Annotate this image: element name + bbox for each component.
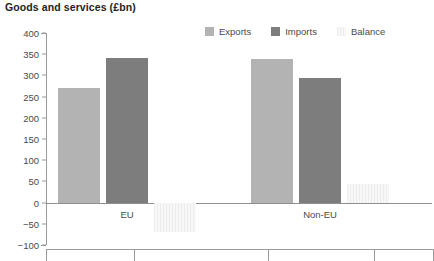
y-axis-tick-mark: [42, 223, 46, 224]
y-axis-tick-mark: [42, 181, 46, 182]
plot-area: 400350300250200150100500−50−100EUNon-EU: [46, 33, 432, 245]
y-axis-tick-mark: [42, 33, 46, 34]
y-axis-tick-label: 150: [23, 134, 39, 145]
x-axis-category-label: EU: [120, 209, 133, 220]
table-gridline: [46, 250, 47, 261]
bar-exports: [251, 59, 293, 202]
y-axis-tick-mark: [42, 75, 46, 76]
bar-exports: [58, 88, 100, 202]
y-axis-tick-label: 50: [28, 176, 39, 187]
y-axis-tick-label: −50: [23, 218, 39, 229]
table-below-crop: [46, 249, 434, 260]
table-gridline: [268, 250, 269, 261]
y-axis-tick-mark: [42, 117, 46, 118]
y-axis-tick-mark: [42, 139, 46, 140]
zero-baseline: [46, 203, 432, 204]
y-axis-tick-mark: [42, 54, 46, 55]
y-axis-tick-label: 100: [23, 155, 39, 166]
table-gridline: [374, 250, 375, 261]
y-axis-tick-mark: [42, 96, 46, 97]
bar-balance: [154, 203, 196, 233]
y-axis-tick-label: 200: [23, 112, 39, 123]
y-axis-tick-label: 250: [23, 91, 39, 102]
y-axis-tick-mark: [42, 245, 46, 246]
y-axis-tick-label: −100: [18, 240, 39, 251]
y-axis-tick-mark: [42, 160, 46, 161]
bar-balance: [347, 184, 389, 202]
chart-title: Goods and services (£bn): [5, 1, 136, 13]
bar-imports: [299, 78, 341, 203]
table-gridline: [134, 250, 135, 261]
y-axis-tick-label: 400: [23, 28, 39, 39]
y-axis-tick-label: 350: [23, 49, 39, 60]
bar-imports: [106, 58, 148, 202]
y-axis-tick-label: 300: [23, 70, 39, 81]
x-axis-category-label: Non-EU: [303, 209, 337, 220]
y-axis-tick-label: 0: [34, 197, 39, 208]
